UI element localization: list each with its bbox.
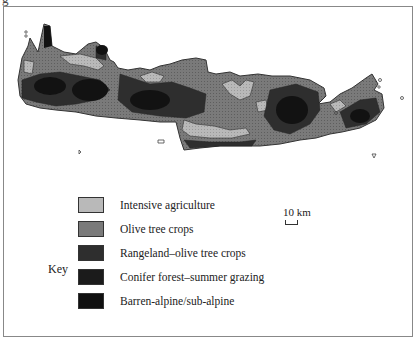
scale-bar: 10 km	[283, 206, 311, 218]
legend-label: Olive tree crops	[120, 223, 193, 235]
scale-label: 10 km	[283, 206, 311, 218]
swatch-rangeland-olive	[78, 245, 104, 261]
legend-title: Key	[48, 262, 68, 277]
legend-label: Conifer forest–summer grazing	[120, 271, 264, 283]
swatch-olive-tree-crops	[78, 221, 104, 237]
legend-label: Intensive agriculture	[120, 199, 215, 211]
scale-bar-line	[285, 220, 298, 225]
swatch-conifer-forest	[78, 269, 104, 285]
swatch-barren-alpine	[78, 293, 104, 309]
legend-label: Barren-alpine/sub-alpine	[120, 295, 234, 307]
swatch-intensive-agriculture	[78, 197, 104, 213]
legend-label: Rangeland–olive tree crops	[120, 247, 246, 259]
